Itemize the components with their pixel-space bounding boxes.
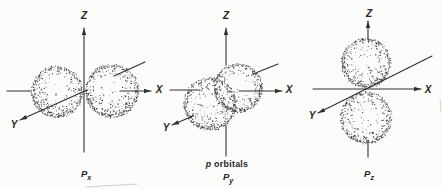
p-orbitals-figure-svg: ZXYPxZXYPyZXYPzp orbitals	[0, 0, 442, 189]
figure-caption: p orbitals	[205, 159, 249, 169]
axis-label-z: Z	[222, 10, 230, 21]
axis-label-x: X	[155, 84, 164, 95]
axis-label-z: Z	[365, 8, 373, 19]
axis-label-z: Z	[80, 10, 88, 21]
orbital-label-sub: z	[369, 174, 374, 181]
axis-label-x: X	[285, 84, 294, 95]
caption-rest: orbitals	[211, 159, 248, 169]
p-orbitals-figure: ZXYPxZXYPyZXYPzp orbitals	[0, 0, 442, 189]
axis-label-x: X	[424, 84, 433, 95]
